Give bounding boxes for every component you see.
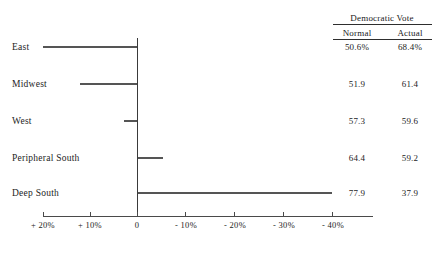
x-tick-label-m10: - 10% [175, 220, 197, 230]
x-tick-label-0: 0 [135, 220, 140, 230]
x-tick-m40 [332, 212, 333, 216]
table-column-header-actual: Actual [397, 28, 422, 38]
table-cell-normal-deep-south: 77.9 [349, 188, 366, 198]
bar-deep-south [137, 192, 332, 194]
x-tick-label-20: + 20% [31, 220, 55, 230]
table-title-rule [333, 24, 432, 25]
x-tick-label-m30: - 30% [273, 220, 295, 230]
x-tick-label-m40: - 40% [322, 220, 344, 230]
table-cell-actual-east: 68.4% [398, 42, 422, 52]
category-label-east: East [12, 42, 29, 52]
table-cell-normal-peripheral-south: 64.4 [349, 153, 366, 163]
table-cell-actual-deep-south: 37.9 [402, 188, 419, 198]
x-axis-baseline [43, 216, 373, 217]
table-cell-actual-midwest: 61.4 [402, 79, 419, 89]
zero-axis-line [137, 38, 138, 216]
bar-peripheral-south [137, 157, 163, 159]
table-cell-actual-west: 59.6 [402, 116, 419, 126]
bar-west [124, 120, 137, 122]
table-cell-normal-west: 57.3 [349, 116, 366, 126]
x-tick-label-m20: - 20% [224, 220, 246, 230]
x-tick-20 [43, 212, 44, 216]
bar-east [43, 46, 137, 48]
x-tick-m30 [283, 212, 284, 216]
table-cell-normal-east: 50.6% [345, 42, 369, 52]
table-cell-actual-peripheral-south: 59.2 [402, 153, 419, 163]
category-label-west: West [12, 116, 32, 126]
x-tick-label-10: + 10% [78, 220, 102, 230]
category-label-deep-south: Deep South [12, 188, 59, 198]
table-column-header-normal: Normal [343, 28, 372, 38]
x-tick-m10 [185, 212, 186, 216]
table-header-rule [333, 39, 432, 40]
x-tick-0 [137, 212, 138, 216]
x-tick-10 [90, 212, 91, 216]
bar-midwest [80, 83, 137, 85]
table-cell-normal-midwest: 51.9 [349, 79, 366, 89]
x-tick-m20 [234, 212, 235, 216]
category-label-midwest: Midwest [12, 79, 47, 89]
table-title: Democratic Vote [332, 13, 432, 23]
category-label-peripheral-south: Peripheral South [12, 153, 80, 163]
chart-root: + 20% + 10% 0 - 10% - 20% - 30% - 40% Ea… [0, 0, 443, 260]
